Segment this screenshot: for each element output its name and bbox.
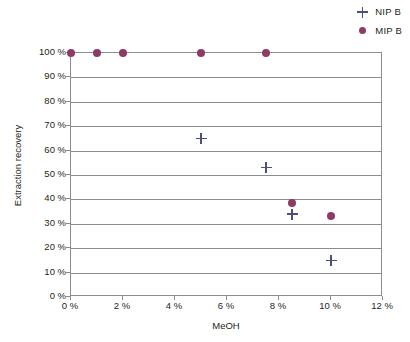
legend-item-mip-b: MIP B — [357, 25, 402, 37]
y-axis-title: Extraction recovery — [12, 101, 23, 231]
y-axis-tick-label: 10 % — [18, 267, 66, 277]
y-axis-tick-label: 50 % — [18, 169, 66, 179]
data-point-nip-b — [261, 162, 272, 173]
plus-marker-icon — [357, 7, 368, 18]
x-axis-title: MeOH — [70, 320, 382, 331]
y-axis-tick-label: 80 % — [18, 96, 66, 106]
x-axis-tick-label: 8 % — [258, 301, 298, 311]
gridline — [71, 248, 381, 249]
data-point-mip-b — [327, 212, 335, 220]
data-point-nip-b — [287, 209, 298, 220]
x-axis-tick-label: 12 % — [362, 301, 402, 311]
gridline — [71, 126, 381, 127]
gridline — [71, 102, 381, 103]
x-axis-tick-mark — [122, 296, 123, 300]
legend-label-mip-b: MIP B — [375, 26, 402, 36]
x-axis-tick-mark — [70, 296, 71, 300]
x-axis-tick-mark — [226, 296, 227, 300]
x-axis-tick-mark — [382, 296, 383, 300]
x-axis-tick-mark — [278, 296, 279, 300]
y-axis-tick-label: 40 % — [18, 193, 66, 203]
legend-label-nip-b: NIP B — [375, 7, 401, 17]
gridline — [71, 175, 381, 176]
data-point-mip-b — [197, 49, 205, 57]
x-axis-tick-label: 10 % — [310, 301, 350, 311]
y-axis-tick-label: 90 % — [18, 71, 66, 81]
data-point-mip-b — [262, 49, 270, 57]
plot-area — [70, 52, 382, 296]
gridline — [71, 199, 381, 200]
y-axis-tick-label: 70 % — [18, 120, 66, 130]
gridline — [71, 224, 381, 225]
y-axis-tick-label: 100 % — [18, 47, 66, 57]
x-axis-tick-label: 0 % — [50, 301, 90, 311]
x-axis-tick-label: 4 % — [154, 301, 194, 311]
data-point-nip-b — [326, 255, 337, 266]
x-axis-tick-mark — [330, 296, 331, 300]
gridline — [71, 151, 381, 152]
y-axis-tick-label: 20 % — [18, 242, 66, 252]
chart-legend: NIP B MIP B — [357, 6, 402, 37]
x-axis-tick-label: 2 % — [102, 301, 142, 311]
data-point-mip-b — [119, 49, 127, 57]
y-axis-tick-label: 60 % — [18, 145, 66, 155]
x-axis-tick-label: 6 % — [206, 301, 246, 311]
y-axis-tick-label: 0 % — [18, 291, 66, 301]
scatter-chart: NIP B MIP B 0 %10 %20 %30 %40 %50 %60 %7… — [0, 0, 410, 342]
data-point-nip-b — [196, 133, 207, 144]
gridline — [71, 77, 381, 78]
x-axis-tick-mark — [174, 296, 175, 300]
data-point-mip-b — [93, 49, 101, 57]
y-axis-tick-label: 30 % — [18, 218, 66, 228]
circle-marker-icon — [357, 26, 368, 37]
data-point-mip-b — [288, 199, 296, 207]
legend-item-nip-b: NIP B — [357, 6, 401, 18]
data-point-mip-b — [67, 49, 75, 57]
gridline — [71, 273, 381, 274]
